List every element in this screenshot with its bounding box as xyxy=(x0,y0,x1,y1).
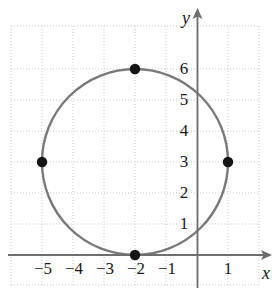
y-tick-label: 4 xyxy=(180,121,189,140)
data-point-left xyxy=(37,157,47,167)
y-tick-label: 5 xyxy=(180,90,189,109)
x-tick-label: −5 xyxy=(34,259,52,278)
x-tick-label: −2 xyxy=(127,259,145,278)
y-tick-label: 1 xyxy=(180,214,189,233)
x-axis-label: x xyxy=(261,263,270,283)
data-point-top xyxy=(130,64,140,74)
x-tick-label: −3 xyxy=(96,259,114,278)
x-tick-label: 1 xyxy=(224,259,233,278)
x-tick-label: −4 xyxy=(65,259,84,278)
y-tick-label: 2 xyxy=(180,183,189,202)
x-tick-label: −1 xyxy=(158,259,176,278)
y-axis-label: y xyxy=(180,8,190,28)
graph-figure: −5 −4 −3 −2 −1 1 1 2 3 4 5 6 x y xyxy=(0,0,279,292)
y-tick-label: 6 xyxy=(180,59,189,78)
y-tick-label: 3 xyxy=(180,152,189,171)
coordinate-plane-svg: −5 −4 −3 −2 −1 1 1 2 3 4 5 6 x y xyxy=(0,0,279,292)
data-point-right xyxy=(223,157,233,167)
